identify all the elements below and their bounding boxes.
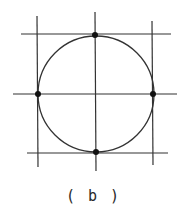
circle-tangent-diagram bbox=[0, 0, 187, 214]
top-point-marker bbox=[92, 32, 98, 38]
bottom-point-marker bbox=[93, 149, 99, 155]
figure-caption: ( b ) bbox=[0, 187, 187, 205]
right-point-marker bbox=[150, 91, 156, 97]
left-point-marker bbox=[35, 91, 41, 97]
